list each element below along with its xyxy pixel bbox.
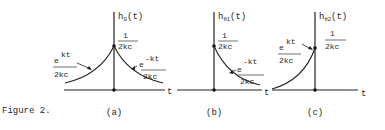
y-axis-label: h0(t) (118, 12, 143, 23)
left-curve-denominator: 2kc (54, 70, 69, 79)
arrowhead-icon (87, 66, 92, 70)
panel-label: (c) (307, 108, 323, 118)
peak-denominator: 2kc (325, 42, 340, 51)
x-axis-label: t (361, 89, 366, 99)
figure-2-diagram: Figure 2. h0(t) 1 2kc e kt 2kc e -kt 2kc… (0, 0, 385, 130)
peak-numerator: 1 (123, 31, 128, 40)
peak-denominator: 2kc (218, 42, 233, 51)
right-curve-base: e (139, 60, 144, 69)
panel-b: hθ1(t) 1 2kc e -kt 2kc t (b) (177, 12, 269, 118)
origin-dot (313, 88, 317, 92)
right-curve-denominator: 2kc (143, 72, 158, 81)
y-axis-label: hθ1(t) (218, 12, 246, 23)
arrowhead-icon (308, 46, 313, 50)
left-curve-base: e (54, 56, 59, 65)
origin-dot (112, 88, 116, 92)
panel-label: (a) (106, 108, 122, 118)
peak-denominator: 2kc (118, 42, 133, 51)
panel-a: h0(t) 1 2kc e kt 2kc e -kt 2kc t (a) (53, 12, 172, 118)
right-curve-exponent: -kt (145, 54, 159, 63)
y-axis-label: hθ2(t) (319, 12, 347, 23)
right-curve-base: e (237, 65, 242, 74)
origin-dot (212, 88, 216, 92)
right-curve-denominator: 2kc (240, 77, 255, 86)
rising-exponential-curve (65, 46, 114, 83)
x-axis-label: t (264, 88, 269, 98)
panel-label: (b) (206, 108, 222, 118)
left-curve-exponent: kt (61, 50, 71, 59)
left-curve-base: e (279, 43, 284, 52)
peak-numerator: 1 (222, 31, 227, 40)
left-curve-exponent: kt (286, 37, 296, 46)
x-axis-label: t (167, 87, 172, 97)
panel-c: hθ2(t) 1 2kc e kt 2kc t (c) (272, 12, 366, 118)
peak-numerator: 1 (330, 29, 335, 38)
right-curve-exponent: -kt (243, 57, 257, 66)
left-curve-denominator: 2kc (279, 56, 294, 65)
figure-caption: Figure 2. (2, 106, 51, 116)
